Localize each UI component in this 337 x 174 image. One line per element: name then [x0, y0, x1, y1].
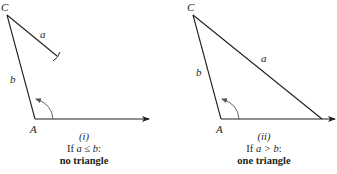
caption-ii: (ii) If a > b: one triangle — [204, 131, 324, 167]
vertex-c-label: C — [1, 2, 8, 13]
side-a-label: a — [261, 53, 267, 64]
caption-result: no triangle — [24, 155, 144, 167]
caption-result: one triangle — [204, 155, 324, 167]
side-a-line — [193, 15, 322, 119]
caption-condition: If a ≤ b: — [24, 143, 144, 155]
caption-condition: If a > b: — [204, 143, 324, 155]
figure-i — [7, 15, 149, 119]
vertex-c-label: C — [187, 2, 194, 13]
side-a-line — [7, 15, 57, 56]
angle-a-arc — [36, 99, 53, 119]
caption-number: (ii) — [204, 131, 324, 143]
caption-number: (i) — [24, 131, 144, 143]
caption-i: (i) If a ≤ b: no triangle — [24, 131, 144, 167]
side-b-line — [7, 15, 35, 119]
figure-ii — [193, 15, 335, 119]
side-a-label: a — [40, 29, 46, 40]
angle-a-arc — [222, 99, 239, 119]
side-b-label: b — [10, 74, 16, 85]
side-b-label: b — [196, 67, 202, 78]
